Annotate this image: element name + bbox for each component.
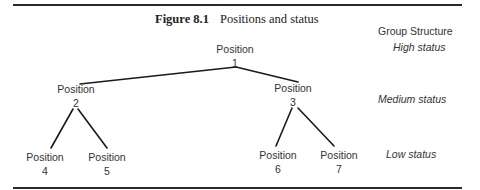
position-node-2: Position 2 bbox=[51, 82, 101, 110]
node-label: Position bbox=[314, 148, 364, 162]
node-label: Position bbox=[268, 81, 318, 95]
node-label: Position bbox=[82, 150, 132, 164]
legend-heading: Group Structure bbox=[378, 25, 453, 37]
position-node-4: Position 4 bbox=[20, 150, 70, 178]
node-number: 7 bbox=[314, 162, 364, 176]
node-label: Position bbox=[253, 148, 303, 162]
node-number: 1 bbox=[210, 56, 260, 70]
position-node-7: Position 7 bbox=[314, 148, 364, 176]
node-number: 2 bbox=[51, 96, 101, 110]
position-node-3: Position 3 bbox=[268, 81, 318, 109]
node-number: 3 bbox=[268, 95, 318, 109]
legend-low-status: Low status bbox=[386, 148, 436, 160]
legend-high-status: High status bbox=[393, 41, 446, 53]
legend-medium-status: Medium status bbox=[378, 93, 446, 105]
node-number: 5 bbox=[82, 164, 132, 178]
position-node-6: Position 6 bbox=[253, 148, 303, 176]
position-node-1: Position 1 bbox=[210, 42, 260, 70]
node-number: 6 bbox=[253, 162, 303, 176]
position-node-5: Position 5 bbox=[82, 150, 132, 178]
node-number: 4 bbox=[20, 164, 70, 178]
node-label: Position bbox=[20, 150, 70, 164]
edge-3-6 bbox=[276, 108, 292, 146]
edge-3-7 bbox=[298, 108, 334, 146]
edge-2-5 bbox=[78, 109, 107, 148]
node-label: Position bbox=[210, 42, 260, 56]
node-label: Position bbox=[51, 82, 101, 96]
edge-2-4 bbox=[51, 109, 73, 148]
